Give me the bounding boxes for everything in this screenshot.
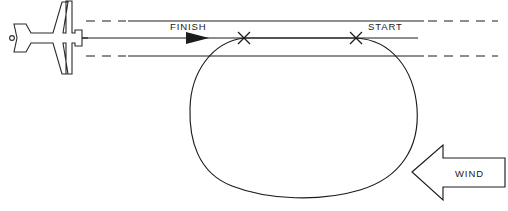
aircraft-nose-spinner bbox=[10, 36, 15, 41]
finish-label: FINISH bbox=[170, 21, 207, 32]
aircraft-body bbox=[14, 1, 82, 74]
aircraft-silhouette bbox=[10, 1, 88, 74]
diagram-canvas: FINISH START WIND bbox=[0, 0, 508, 211]
racetrack-loop bbox=[190, 38, 417, 198]
wind-label: WIND bbox=[455, 168, 484, 179]
flight-pattern-diagram: FINISH START WIND bbox=[0, 0, 508, 211]
racetrack-loop-group bbox=[190, 38, 417, 198]
flight-direction-arrowhead bbox=[186, 32, 209, 44]
start-label: START bbox=[368, 21, 403, 32]
flight-direction-arrow bbox=[186, 32, 209, 44]
